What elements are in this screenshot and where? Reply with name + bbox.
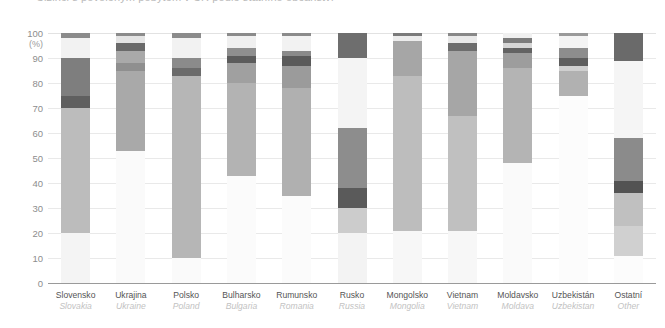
bar-segment[interactable] bbox=[503, 38, 532, 43]
bar-segment[interactable] bbox=[393, 76, 422, 231]
bar-segment[interactable] bbox=[503, 48, 532, 53]
bar-segment[interactable] bbox=[614, 61, 643, 139]
bar-segment[interactable] bbox=[448, 116, 477, 231]
bar-segment[interactable] bbox=[393, 41, 422, 76]
bar-segment[interactable] bbox=[393, 36, 422, 41]
bar-segment[interactable] bbox=[227, 48, 256, 56]
bar-segment[interactable] bbox=[503, 43, 532, 48]
bar-segment[interactable] bbox=[503, 53, 532, 68]
bar-segment[interactable] bbox=[393, 33, 422, 36]
bar-segment[interactable] bbox=[614, 138, 643, 181]
bar-segment[interactable] bbox=[116, 151, 145, 284]
bar-segment[interactable] bbox=[61, 38, 90, 58]
bar-segment[interactable] bbox=[116, 51, 145, 64]
bar-segment[interactable] bbox=[282, 56, 311, 66]
bar-segment[interactable] bbox=[393, 231, 422, 284]
bar-segment[interactable] bbox=[172, 258, 201, 283]
bar-segment[interactable] bbox=[614, 181, 643, 194]
bar-segment[interactable] bbox=[448, 36, 477, 44]
bar-segment[interactable] bbox=[227, 56, 256, 64]
bar-stack bbox=[227, 33, 256, 283]
bar-segment[interactable] bbox=[448, 33, 477, 36]
bar-segment[interactable] bbox=[282, 66, 311, 89]
x-axis-label: UkrajinaUkraine bbox=[103, 290, 158, 312]
bar-segment[interactable] bbox=[172, 38, 201, 58]
bar-stack bbox=[503, 33, 532, 283]
bar-segment[interactable] bbox=[559, 48, 588, 58]
bar-segment[interactable] bbox=[614, 256, 643, 284]
bar-segment[interactable] bbox=[614, 226, 643, 256]
bar-segment[interactable] bbox=[338, 208, 367, 233]
bar-segment[interactable] bbox=[227, 33, 256, 36]
y-axis-tick-60: 60 bbox=[3, 129, 43, 138]
bar-column[interactable] bbox=[393, 33, 422, 283]
bar-column[interactable] bbox=[116, 33, 145, 283]
bar-column[interactable] bbox=[282, 33, 311, 283]
bar-segment[interactable] bbox=[559, 66, 588, 71]
bar-segment[interactable] bbox=[61, 96, 90, 109]
bar-segment[interactable] bbox=[503, 163, 532, 283]
bar-segment[interactable] bbox=[116, 36, 145, 44]
y-axis-tick-70: 70 bbox=[3, 104, 43, 113]
bar-segment[interactable] bbox=[172, 76, 201, 259]
y-axis-tick-10: 10 bbox=[3, 254, 43, 263]
bar-segment[interactable] bbox=[172, 58, 201, 68]
bar-segment[interactable] bbox=[227, 63, 256, 83]
bar-segment[interactable] bbox=[282, 88, 311, 196]
bar-segment[interactable] bbox=[559, 71, 588, 96]
bar-segment[interactable] bbox=[338, 33, 367, 58]
bar-segment[interactable] bbox=[61, 58, 90, 96]
x-axis-label-cz: Mongolsko bbox=[380, 290, 435, 301]
gridline-0 bbox=[48, 283, 656, 284]
bar-segment[interactable] bbox=[61, 233, 90, 283]
x-axis-label-en: Bulgaria bbox=[214, 301, 269, 312]
bar-segment[interactable] bbox=[116, 71, 145, 151]
bar-column[interactable] bbox=[614, 33, 643, 283]
bar-segment[interactable] bbox=[338, 58, 367, 128]
bar-segment[interactable] bbox=[61, 33, 90, 38]
bar-column[interactable] bbox=[448, 33, 477, 283]
bar-segment[interactable] bbox=[614, 193, 643, 226]
bar-segment[interactable] bbox=[282, 196, 311, 284]
bar-column[interactable] bbox=[338, 33, 367, 283]
bar-stack bbox=[116, 33, 145, 283]
bar-segment[interactable] bbox=[172, 33, 201, 38]
bar-segment[interactable] bbox=[172, 68, 201, 76]
bar-segment[interactable] bbox=[338, 233, 367, 283]
bar-segment[interactable] bbox=[227, 83, 256, 176]
bar-column[interactable] bbox=[172, 33, 201, 283]
bar-segment[interactable] bbox=[503, 33, 532, 38]
bar-column[interactable] bbox=[559, 33, 588, 283]
bar-segment[interactable] bbox=[448, 231, 477, 284]
x-axis-label: RumunskoRomania bbox=[269, 290, 324, 312]
bar-segment[interactable] bbox=[559, 58, 588, 66]
bar-column[interactable] bbox=[227, 33, 256, 283]
bar-segment[interactable] bbox=[61, 108, 90, 233]
bar-segment[interactable] bbox=[116, 33, 145, 36]
x-axis-label-cz: Polsko bbox=[159, 290, 214, 301]
bar-segment[interactable] bbox=[116, 43, 145, 51]
bar-segment[interactable] bbox=[338, 128, 367, 188]
bar-column[interactable] bbox=[61, 33, 90, 283]
bar-segment[interactable] bbox=[503, 68, 532, 163]
bar-segment[interactable] bbox=[116, 63, 145, 71]
bar-segment[interactable] bbox=[227, 176, 256, 284]
bar-segment[interactable] bbox=[559, 36, 588, 49]
bar-segment[interactable] bbox=[448, 43, 477, 51]
x-axis-label: PolskoPoland bbox=[159, 290, 214, 312]
bar-segment[interactable] bbox=[282, 36, 311, 51]
bar-segment[interactable] bbox=[448, 51, 477, 116]
bar-segment[interactable] bbox=[282, 33, 311, 36]
bar-segment[interactable] bbox=[282, 51, 311, 56]
bar-segment[interactable] bbox=[559, 96, 588, 284]
bar-column[interactable] bbox=[503, 33, 532, 283]
bar-segment[interactable] bbox=[559, 33, 588, 36]
y-axis-tick-0: 0 bbox=[3, 279, 43, 288]
bar-segment[interactable] bbox=[614, 33, 643, 61]
x-axis-label-en: Mongolia bbox=[380, 301, 435, 312]
x-axis-label-en: Poland bbox=[159, 301, 214, 312]
bar-stack bbox=[614, 33, 643, 283]
y-axis-tick-50: 50 bbox=[3, 154, 43, 163]
bar-segment[interactable] bbox=[338, 188, 367, 208]
bar-segment[interactable] bbox=[227, 36, 256, 49]
